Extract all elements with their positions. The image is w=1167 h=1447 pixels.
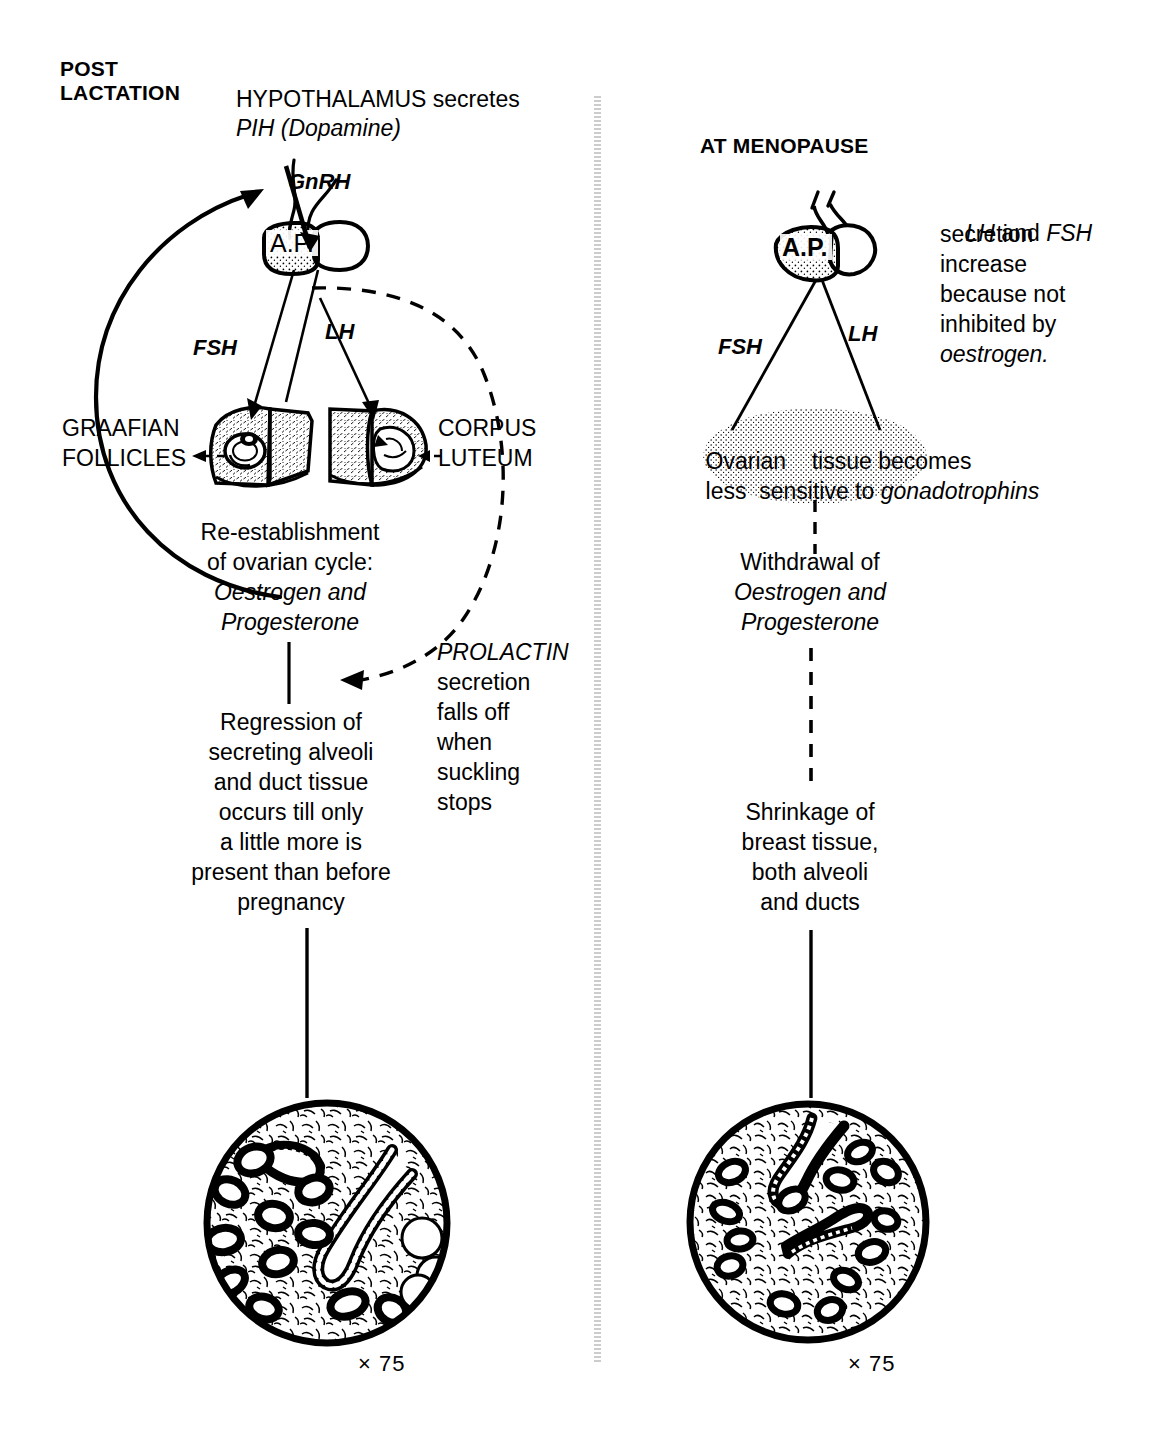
withdrawal-line-0: Withdrawal of [690, 548, 930, 577]
shrinkage-line-1: breast tissue, [690, 828, 930, 857]
withdrawal-line-2: Progesterone [690, 608, 930, 637]
pih-dopamine-label: PIH (Dopamine) [236, 114, 401, 143]
prolactin-line-4: suckling [437, 758, 520, 787]
histology-field-post-lactation [196, 1092, 458, 1354]
shrinkage-line-2: both alveoli [690, 858, 930, 887]
withdrawal-to-shrinkage-connector [804, 648, 818, 790]
left-stem-to-histology [300, 928, 314, 1098]
figure-canvas: POST LACTATION HYPOTHALAMUS secretes PIH… [0, 0, 1167, 1447]
menopause-note-line-4: inhibited by [940, 310, 1056, 339]
shrinkage-line-3: and ducts [690, 888, 930, 917]
menopause-note-line-1: secretion [940, 220, 1033, 249]
regression-line-4: a little more is [150, 828, 432, 857]
ovarian-word-less: less [706, 478, 747, 504]
fsh-label-right: FSH [718, 333, 762, 361]
column-divider [594, 96, 601, 1364]
hypothalamus-secretes-label: HYPOTHALAMUS secretes [236, 85, 520, 114]
shrinkage-line-0: Shrinkage of [690, 798, 930, 827]
right-heading: AT MENOPAUSE [700, 133, 868, 160]
histology-field-menopause [680, 1094, 936, 1350]
menopause-note-line-2: increase [940, 250, 1027, 279]
prolactin-line-0: PROLACTIN [437, 638, 569, 667]
ovary-to-withdrawal-connector [808, 500, 822, 554]
prolactin-line-2: falls off [437, 698, 509, 727]
ovarian-word-gonadotrophins: gonadotrophins [881, 478, 1040, 504]
left-heading-line2: LACTATION [60, 80, 180, 107]
ovarian-tissue-line-1: less sensitive to gonadotrophins [680, 448, 1039, 536]
regression-line-1: secreting alveoli [150, 738, 432, 767]
magnification-label-left: × 75 [358, 1350, 405, 1378]
menopause-note-line-3: because not [940, 280, 1065, 309]
magnification-label-right: × 75 [848, 1350, 895, 1378]
prolactin-line-3: when [437, 728, 492, 757]
left-heading-line1: POST [60, 56, 118, 83]
menopause-note-line-5: oestrogen. [940, 340, 1049, 369]
prolactin-line-1: secretion [437, 668, 530, 697]
regression-line-2: and duct tissue [150, 768, 432, 797]
svg-text:A.P.: A.P. [782, 233, 827, 261]
menopause-note-fsh: FSH [1046, 220, 1092, 246]
regression-line-6: pregnancy [150, 888, 432, 917]
prolactin-line-5: stops [437, 788, 492, 817]
right-stem-to-histology [804, 930, 818, 1098]
regression-line-5: present than before [150, 858, 432, 887]
regression-line-3: occurs till only [150, 798, 432, 827]
regression-line-0: Regression of [150, 708, 432, 737]
withdrawal-line-1: Oestrogen and [690, 578, 930, 607]
lh-label-right: LH [848, 320, 877, 348]
